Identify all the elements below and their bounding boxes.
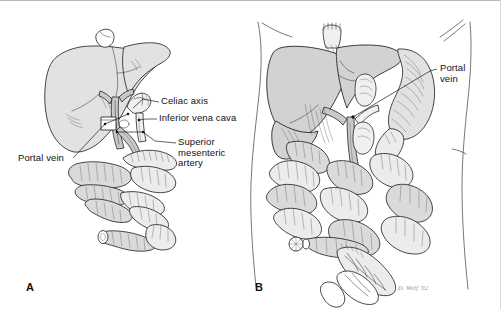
artist-signature: D. Wolf '02 xyxy=(398,285,428,291)
anatomy-illustration-canvas xyxy=(0,1,501,309)
panel-a-liver xyxy=(45,29,170,152)
panel-a-bowel xyxy=(69,150,177,251)
label-portal-vein-b: Portal vein xyxy=(440,63,465,84)
panel-letter-a: A xyxy=(26,281,34,293)
anatomy-figure: Celiac axis Inferior vena cava Superior … xyxy=(0,0,501,309)
label-portal-vein-a: Portal vein xyxy=(18,153,64,164)
panel-b-illustration xyxy=(251,20,471,307)
label-superior-mesenteric-artery: Superior mesenteric artery xyxy=(178,137,225,169)
panel-letter-b: B xyxy=(255,281,263,293)
label-inferior-vena-cava: Inferior vena cava xyxy=(159,113,236,124)
panel-a-illustration xyxy=(45,29,177,251)
panel-a-ivc xyxy=(136,113,146,142)
label-celiac-axis: Celiac axis xyxy=(161,96,208,107)
